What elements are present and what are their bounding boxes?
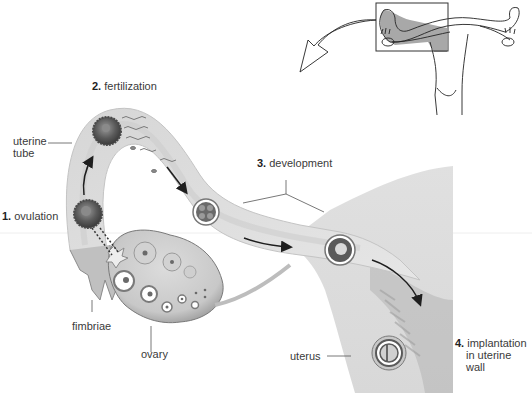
fimbriae-label: fimbriae (72, 320, 111, 332)
step-2-label: 2. fertilization (92, 80, 157, 92)
uterus-text: uterus (290, 350, 321, 362)
blastocyst (325, 235, 355, 265)
implanted-blastocyst (372, 336, 406, 370)
step-4-number: 4. (455, 337, 464, 349)
step-4-label: 4. implantation in uterine wall (455, 337, 532, 373)
step-1-text: ovulation (14, 210, 58, 222)
inset-overview (300, 3, 519, 115)
fertilized-egg (93, 117, 121, 145)
uterine-tube-label-line2: tube (13, 147, 47, 159)
ovulated-egg (74, 200, 102, 228)
ovary-label: ovary (141, 348, 168, 360)
uterus-label: uterus (290, 350, 321, 362)
step-4-text-line2: in uterine (455, 349, 532, 361)
ovary-text: ovary (141, 348, 168, 360)
step-3-text: development (269, 157, 332, 169)
step-3-number: 3. (257, 157, 266, 169)
step-1-label: 1. ovulation (2, 210, 58, 222)
uterine-tube-label: uterine tube (13, 135, 47, 159)
uterine-tube-label-line1: uterine (13, 135, 47, 147)
cleavage-embryo (193, 199, 219, 225)
fimbriae-text: fimbriae (72, 320, 111, 332)
step-2-text: fertilization (104, 80, 157, 92)
fertilization-diagram (0, 0, 532, 393)
ovarian-ligament (215, 265, 290, 305)
step-4-text-line3: wall (455, 361, 532, 373)
step-2-number: 2. (92, 80, 101, 92)
step-3-label: 3. development (257, 157, 332, 169)
step-1-number: 1. (2, 210, 11, 222)
step-4-text-line1: implantation (467, 337, 526, 349)
